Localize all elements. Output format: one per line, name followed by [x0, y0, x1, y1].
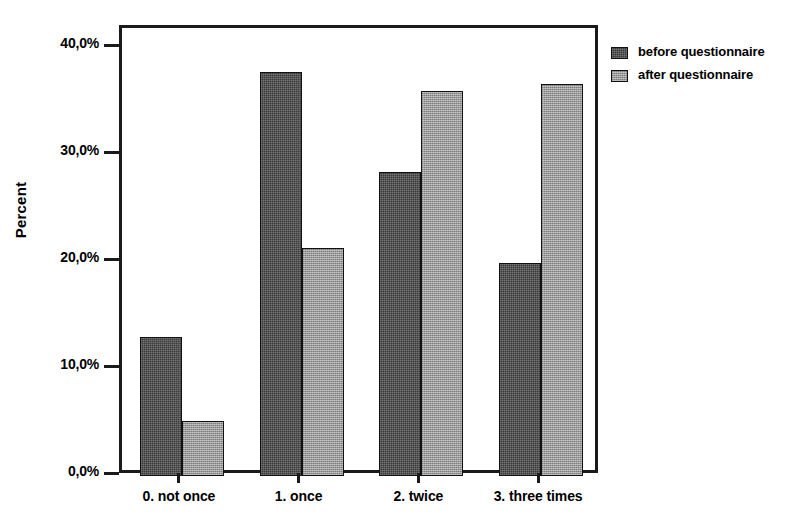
y-axis-tick-label: 0,0%: [68, 463, 99, 479]
bar-after: [182, 421, 224, 476]
y-axis-tick-mark: [104, 472, 119, 475]
bar-before: [379, 172, 421, 476]
bar-before: [140, 337, 182, 476]
bar-before: [260, 72, 302, 476]
y-axis-tick-mark: [104, 151, 119, 154]
legend-label-before: before questionnaire: [638, 44, 765, 59]
x-axis-tick-mark: [417, 473, 420, 483]
y-axis-tick-mark: [104, 258, 119, 261]
x-axis-label: 0. not once: [142, 488, 215, 504]
legend-item-before: before questionnaire: [611, 44, 786, 59]
legend-swatch-before-icon: [611, 47, 628, 59]
y-axis-tick-label: 20,0%: [60, 249, 99, 265]
y-axis-tick-mark: [104, 365, 119, 368]
y-axis-tick-mark: [104, 44, 119, 47]
bar-after: [421, 91, 463, 476]
bar-chart: Percent 0,0%10,0%20,0%30,0%40,0% 0. not …: [0, 0, 794, 519]
y-axis-tick-label: 10,0%: [60, 356, 99, 372]
y-axis-tick-label: 40,0%: [60, 35, 99, 51]
bar-after: [541, 84, 583, 476]
x-axis-label: 2. twice: [393, 488, 443, 504]
x-axis-tick-mark: [537, 473, 540, 483]
x-axis-label: 3. three times: [494, 488, 583, 504]
legend-swatch-after-icon: [611, 70, 628, 82]
y-axis-title: Percent: [12, 150, 29, 270]
x-axis-tick-mark: [297, 473, 300, 483]
legend-label-after: after questionnaire: [638, 67, 753, 82]
legend: before questionnaire after questionnaire: [611, 44, 786, 90]
y-axis-tick-label: 30,0%: [60, 142, 99, 158]
legend-item-after: after questionnaire: [611, 67, 786, 82]
x-axis-label: 1. once: [275, 488, 323, 504]
plot-area: [119, 25, 598, 473]
bar-before: [499, 263, 541, 476]
x-axis-tick-mark: [177, 473, 180, 483]
bar-after: [302, 248, 344, 476]
